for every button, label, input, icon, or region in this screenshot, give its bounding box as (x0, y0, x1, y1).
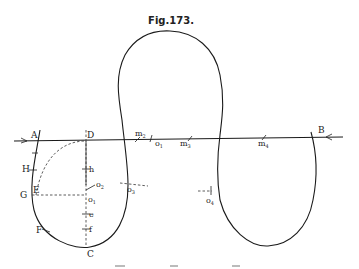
figure-title: Fig.173. (148, 15, 194, 26)
label-a: A (30, 130, 38, 140)
dashed-arc-de (36, 141, 84, 195)
label-f: F (36, 225, 42, 235)
o3-construction-line (120, 183, 148, 186)
label-h: H (22, 164, 30, 174)
o2-marker (86, 185, 95, 190)
label-e: E (33, 185, 40, 195)
label-e-small: e (89, 210, 94, 219)
label-o2: o2 (96, 180, 104, 190)
label-f-small: f (89, 225, 93, 234)
label-h-small: h (89, 165, 94, 174)
label-d: D (87, 130, 94, 140)
label-m3: m3 (180, 139, 191, 149)
label-o3: o3 (127, 185, 135, 195)
label-o1: o1 (88, 195, 96, 205)
tick-o1b (150, 135, 152, 142)
label-o1-line: o1 (155, 139, 163, 149)
faint-bottom-marks (115, 265, 240, 267)
label-m2: m2 (135, 129, 146, 139)
label-m4: m4 (258, 139, 269, 149)
line-ab (14, 137, 343, 141)
label-b: B (318, 125, 325, 135)
figure-173-diagram: Fig.173. A B C D E F G H h e f o1 o2 o3 … (0, 0, 359, 269)
label-g: G (20, 190, 27, 200)
label-c: C (87, 249, 94, 259)
label-o4: o4 (206, 196, 214, 206)
